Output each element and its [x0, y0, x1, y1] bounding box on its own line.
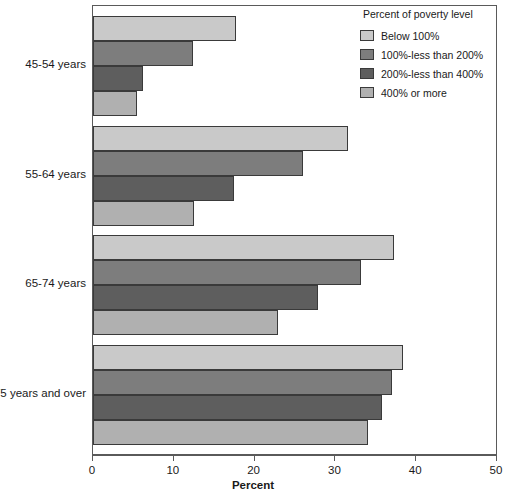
bar: [93, 285, 318, 310]
bar: [93, 310, 278, 335]
bar: [93, 235, 394, 260]
legend-title: Percent of poverty level: [363, 8, 500, 20]
bar: [93, 345, 403, 370]
x-tick: [334, 455, 335, 461]
x-tick: [92, 455, 93, 461]
bar: [93, 420, 368, 445]
category-label-text: 55-64 years: [25, 168, 86, 180]
x-axis-title: Percent: [0, 479, 506, 491]
legend-swatch-icon: [360, 49, 374, 60]
bar-chart: 45-54 years55-64 years65-74 years75 year…: [0, 0, 506, 495]
bar: [93, 370, 392, 395]
bar: [93, 260, 361, 285]
legend-swatch-icon: [360, 68, 374, 79]
x-tick: [415, 455, 416, 461]
x-tick: [254, 455, 255, 461]
category-label-text: 75 years and over: [0, 387, 86, 399]
legend-item: 100%-less than 200%: [360, 45, 500, 64]
x-tick: [496, 455, 497, 461]
legend-item: Below 100%: [360, 26, 500, 45]
bar: [93, 176, 234, 201]
legend-swatch-icon: [360, 87, 374, 98]
legend-item-label: 400% or more: [381, 87, 447, 99]
x-tick-label: 10: [166, 464, 179, 476]
x-axis-line: [92, 455, 497, 456]
bar: [93, 16, 236, 41]
bar: [93, 66, 143, 91]
legend-swatch-icon: [360, 30, 374, 41]
legend-item-label: 200%-less than 400%: [381, 68, 483, 80]
x-tick-label: 40: [409, 464, 422, 476]
legend-item-label: Below 100%: [381, 30, 439, 42]
legend-item-label: 100%-less than 200%: [381, 49, 483, 61]
bar: [93, 151, 303, 176]
category-label-text: 45-54 years: [25, 58, 86, 70]
bar: [93, 201, 194, 226]
legend: Percent of poverty level Below 100%100%-…: [360, 8, 500, 102]
x-tick-label: 0: [89, 464, 95, 476]
bar: [93, 41, 193, 66]
bar: [93, 126, 348, 151]
x-tick: [173, 455, 174, 461]
legend-item: 400% or more: [360, 83, 500, 102]
x-tick-label: 20: [247, 464, 260, 476]
legend-item: 200%-less than 400%: [360, 64, 500, 83]
category-label-text: 65-74 years: [25, 277, 86, 289]
bar: [93, 395, 382, 420]
bar: [93, 91, 137, 116]
x-tick-label: 50: [490, 464, 503, 476]
x-tick-label: 30: [328, 464, 341, 476]
